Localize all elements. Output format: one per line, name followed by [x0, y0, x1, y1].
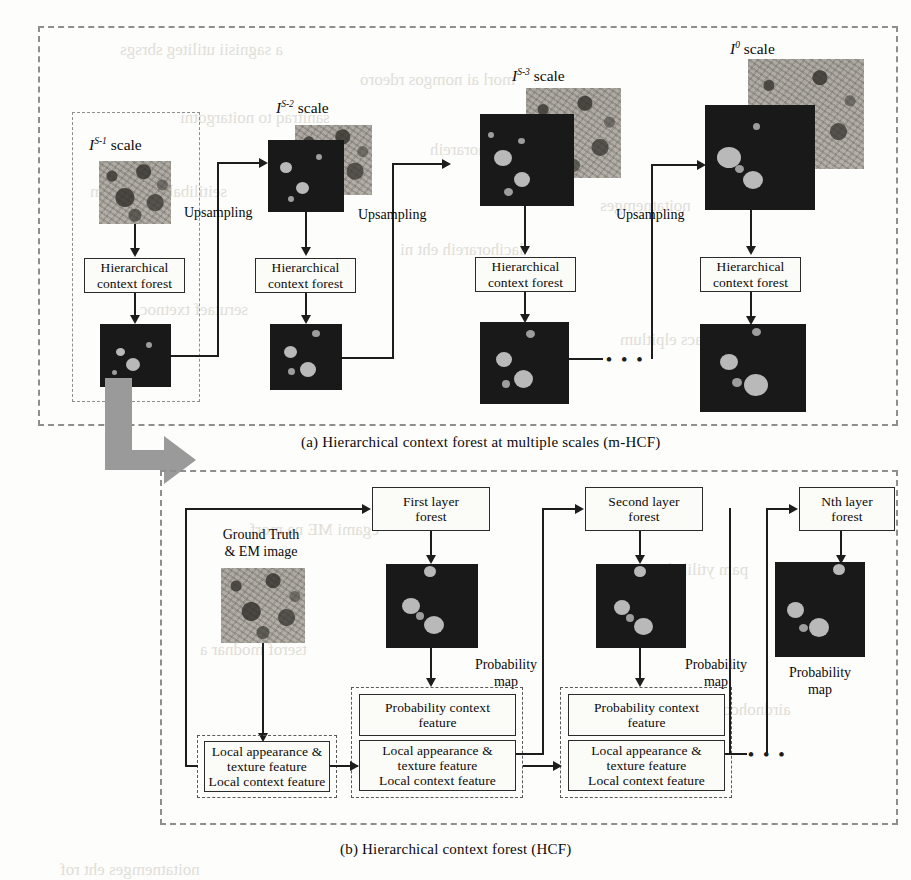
prob-blob: [288, 196, 294, 202]
feature-to-forest-line-v-n2: [729, 508, 731, 754]
probability-overlay-s2: [268, 140, 344, 212]
forest-box-line1: First layer: [403, 494, 459, 509]
arrow-head-s2-to-forest: [301, 247, 311, 256]
probability-map-label-2: Probability map: [672, 657, 760, 690]
prob-to-context-line-1: [430, 648, 432, 680]
chain-arrow-1-to-2: [553, 761, 562, 771]
feature-to-forest-line-v-1: [185, 508, 187, 766]
prob-blob: [787, 602, 804, 618]
prob-blob: [280, 162, 292, 173]
feature-to-forest-arrow-2: [575, 504, 584, 514]
upsample-line-h-s2: [342, 357, 394, 359]
prob-to-context-arrow-1: [426, 678, 436, 687]
upsample-line-v-s2: [392, 163, 394, 358]
forest-box-s1[interactable]: Hierarchical context forest: [84, 258, 185, 293]
arrow-line-s0-to-forest: [750, 210, 752, 248]
forest-box-line1: Hierarchical: [101, 260, 169, 275]
feature-to-forest-line-v-2: [542, 508, 544, 754]
forest-box-layer-n[interactable]: Nth layer forest: [799, 487, 895, 531]
prob-blob: [744, 374, 768, 396]
feature-to-forest-line-h-bottom-n: [725, 753, 747, 755]
arrow-head-s3-to-forest: [520, 246, 530, 255]
arrow-line-forest-to-prob-s1: [134, 293, 136, 317]
prob-blob: [312, 330, 320, 337]
feature-box-initial[interactable]: Local appearance & texture feature Local…: [204, 741, 330, 792]
upsample-line-h-s3: [569, 358, 603, 360]
prob-blob: [518, 138, 525, 144]
prob-blob: [504, 188, 513, 196]
prob-blob: [284, 346, 297, 358]
prob-blob: [799, 624, 808, 632]
prob-blob: [514, 172, 530, 187]
forest-box-s2[interactable]: Hierarchical context forest: [255, 258, 356, 293]
input-label-line2: & EM image: [224, 544, 297, 559]
prob-blob: [743, 171, 763, 189]
arrow-line-forest-to-prob-s0: [750, 292, 752, 318]
arrow-line-input-to-features: [262, 643, 264, 735]
prob-context-line1: Probability context: [594, 700, 699, 715]
forest-box-line2: context forest: [713, 275, 788, 290]
forest-box-layer-1[interactable]: First layer forest: [372, 487, 490, 531]
arrow-line-s2-to-forest: [305, 212, 307, 249]
forest-box-line2: forest: [415, 509, 446, 524]
nth-riser-line-h: [766, 508, 791, 510]
prob-blob: [496, 352, 512, 367]
upsampling-label-s2: Upsampling: [358, 207, 426, 224]
prob-to-context-arrow-2: [635, 678, 645, 687]
prob-blob: [634, 618, 653, 635]
feature-box-line1: Local appearance &: [212, 744, 322, 759]
forest-box-layer-2[interactable]: Second layer forest: [585, 487, 703, 531]
upsample-line-v-s3: [651, 164, 653, 359]
feature-box-line1: Local appearance &: [382, 743, 492, 758]
scale-suffix: scale: [530, 67, 565, 84]
prob-to-context-line-2: [639, 648, 641, 680]
panel-a-continuation-dots: • • •: [606, 351, 645, 368]
probability-overlay-s0: [705, 105, 815, 210]
forest-box-line1: Second layer: [608, 494, 679, 509]
prob-blob: [494, 150, 512, 166]
arrow-line-s3-to-forest: [524, 206, 526, 248]
feature-box-line3: Local context feature: [588, 773, 705, 788]
forest-box-line1: Hierarchical: [717, 259, 785, 274]
nth-riser-line: [766, 508, 768, 754]
arrow-head-s0-to-forest: [746, 246, 756, 255]
arrow-line-forest-to-prob-s3: [524, 292, 526, 316]
prob-context-line2: feature: [418, 715, 456, 730]
forest-box-s3[interactable]: Hierarchical context forest: [475, 257, 576, 292]
feature-box-line1: Local appearance &: [591, 743, 701, 758]
upsample-line-top-s2: [392, 163, 444, 165]
prob-blob: [424, 566, 436, 577]
prob-blob: [316, 154, 322, 160]
prob-blob: [634, 566, 646, 577]
probability-overlay-s3: [480, 114, 574, 206]
forest-box-s0[interactable]: Hierarchical context forest: [700, 257, 801, 292]
feature-to-forest-line-h-bottom-1: [185, 765, 198, 767]
panel-a-caption: (a) Hierarchical context forest at multi…: [301, 434, 660, 451]
feature-box-layer-1[interactable]: Local appearance & texture feature Local…: [359, 740, 516, 791]
prob-blob: [488, 132, 494, 138]
forest-to-prob-arrow-1: [426, 555, 436, 564]
prob-context-line1: Probability context: [385, 700, 490, 715]
forest-to-prob-line-1: [430, 531, 432, 557]
ghost-text: noitatnemges eht rof: [60, 860, 200, 880]
forest-box-line1: Hierarchical: [492, 259, 560, 274]
scale-superscript: S-2: [281, 99, 294, 109]
arrow-head-forest-to-prob-s1: [130, 315, 140, 324]
panel-b-caption: (b) Hierarchical context forest (HCF): [340, 841, 571, 858]
probability-map-s0: [700, 324, 806, 412]
probability-context-box-2[interactable]: Probability context feature: [568, 694, 725, 736]
forest-to-prob-line-2: [639, 531, 641, 557]
arrow-head-forest-to-prob-s2: [301, 315, 311, 324]
scale-suffix: scale: [294, 99, 329, 116]
em-image-input: [221, 568, 305, 643]
scale-label-s3: IS-3 scale: [512, 67, 565, 85]
feature-box-layer-2[interactable]: Local appearance & texture feature Local…: [568, 740, 725, 791]
prob-blob: [720, 354, 738, 370]
probability-context-box-1[interactable]: Probability context feature: [359, 694, 516, 736]
prob-blob: [146, 342, 152, 348]
upsample-line-top-s3: [651, 164, 699, 166]
probability-map-label-n: Probability map: [776, 665, 864, 698]
forest-box-line2: forest: [628, 509, 659, 524]
prob-blob: [614, 600, 630, 615]
